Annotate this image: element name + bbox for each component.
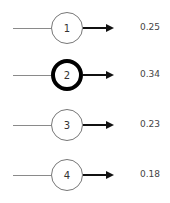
- input-connection: [13, 28, 51, 29]
- node-label: 4: [64, 170, 70, 181]
- arrow-right-icon: [106, 121, 114, 129]
- input-connection: [13, 175, 51, 176]
- output-arrow-line: [83, 174, 107, 176]
- arrow-right-icon: [106, 71, 114, 79]
- output-node-4: 4: [51, 159, 83, 191]
- node-label: 2: [64, 70, 70, 81]
- node-label: 3: [64, 120, 70, 131]
- output-node-1: 1: [51, 12, 83, 44]
- output-row-3: 3 0.23: [0, 106, 170, 146]
- output-layer-diagram: 1 0.25 2 0.34 3 0.23 4 0.18: [0, 0, 170, 203]
- output-value: 0.25: [140, 22, 160, 32]
- arrow-right-icon: [106, 24, 114, 32]
- output-arrow-line: [83, 124, 107, 126]
- node-label: 1: [64, 23, 70, 34]
- input-connection: [13, 75, 51, 76]
- output-value: 0.34: [140, 69, 160, 79]
- output-arrow-line: [83, 27, 107, 29]
- output-row-2: 2 0.34: [0, 56, 170, 96]
- arrow-right-icon: [106, 171, 114, 179]
- output-row-1: 1 0.25: [0, 9, 170, 49]
- output-arrow-line: [83, 74, 107, 76]
- output-value: 0.23: [140, 119, 160, 129]
- input-connection: [13, 125, 51, 126]
- output-node-3: 3: [51, 109, 83, 141]
- output-value: 0.18: [140, 169, 160, 179]
- output-node-2-highlighted: 2: [51, 59, 83, 91]
- output-row-4: 4 0.18: [0, 156, 170, 196]
